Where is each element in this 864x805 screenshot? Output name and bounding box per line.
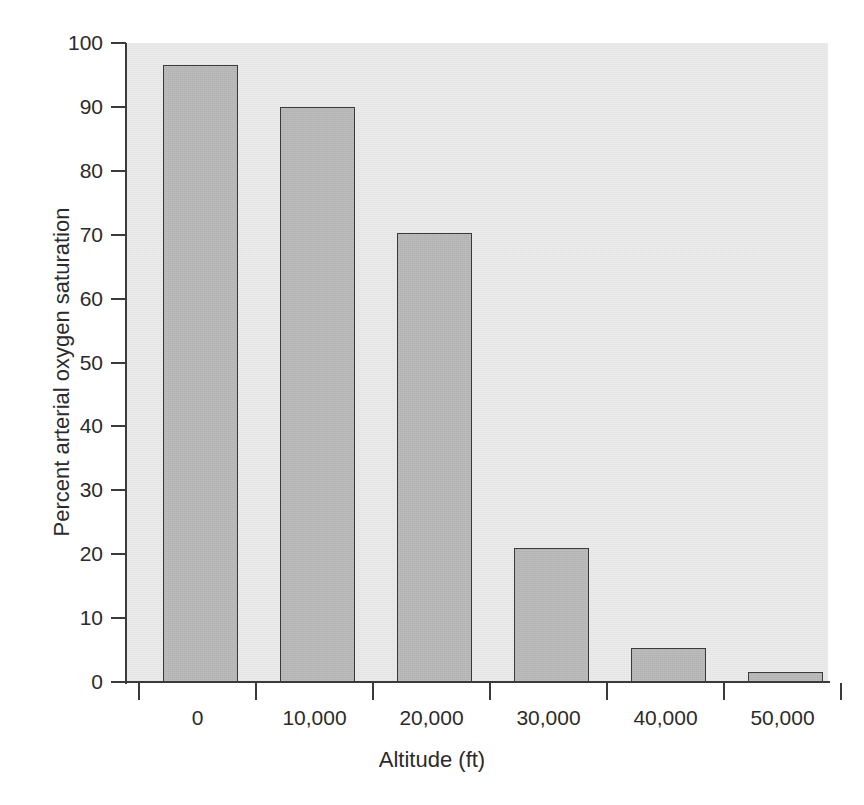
chart-figure: gy 0102030405060708090100 010,00020,0003… (0, 0, 864, 805)
y-axis-tick-label-wrap: 100 (35, 32, 103, 53)
y-axis-tick (111, 234, 126, 236)
y-axis-tick (111, 42, 126, 44)
bar (280, 107, 355, 682)
bar-series (126, 43, 828, 682)
y-axis-title: Percent arterial oxygen saturation (50, 52, 74, 692)
bar (397, 233, 472, 682)
y-axis-tick (111, 617, 126, 619)
y-axis-tick (111, 362, 126, 364)
x-axis-tick-label: 50,000 (713, 706, 853, 730)
x-axis-tick (138, 683, 140, 700)
x-axis-tick (606, 683, 608, 700)
x-axis-tick (723, 683, 725, 700)
y-axis-tick (111, 489, 126, 491)
y-axis-tick (111, 298, 126, 300)
y-axis-tick-label: 100 (43, 32, 103, 53)
y-axis-tick (111, 425, 126, 427)
x-axis-tick (372, 683, 374, 700)
top-crop-artifact: gy (298, 0, 324, 5)
x-axis-title: Altitude (ft) (0, 748, 864, 772)
bar (163, 65, 238, 682)
y-axis-line (125, 43, 127, 684)
x-axis-tick (255, 683, 257, 700)
y-axis-tick (111, 681, 126, 683)
y-axis-tick (111, 553, 126, 555)
x-axis-tick (489, 683, 491, 700)
plot-area (126, 43, 828, 682)
bar (514, 548, 589, 682)
y-axis-tick (111, 106, 126, 108)
x-axis-tick (840, 683, 842, 700)
y-axis-tick (111, 170, 126, 172)
bar (631, 648, 706, 683)
